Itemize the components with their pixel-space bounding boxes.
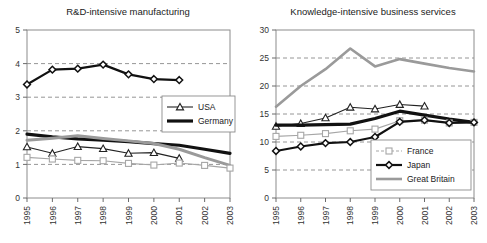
- legend-label-france: France: [407, 146, 434, 156]
- legend-label-germany: Germany: [198, 116, 234, 126]
- x-tick-label-1999: 1999: [124, 206, 134, 225]
- y-tick-label-5: 5: [264, 165, 269, 175]
- x-tick-label-1998: 1998: [98, 206, 108, 225]
- x-tick-label-2002: 2002: [200, 206, 210, 225]
- x-tick-label-1996: 1996: [296, 206, 306, 225]
- x-tick-label-2001: 2001: [420, 206, 430, 225]
- x-tick-label-1996: 1996: [48, 206, 58, 225]
- two-panel-line-chart-figure: R&D-intensive manufacturing0123451995199…: [0, 0, 487, 243]
- data-point-marker-square: [298, 132, 304, 138]
- y-tick-label-5: 5: [15, 25, 20, 35]
- x-tick-label-1999: 1999: [370, 206, 380, 225]
- data-point-marker-square: [151, 162, 157, 168]
- x-tick-label-2000: 2000: [149, 206, 159, 225]
- data-point-marker-square: [24, 154, 30, 160]
- y-tick-label-30: 30: [260, 25, 270, 35]
- y-tick-label-20: 20: [260, 81, 270, 91]
- x-tick-label-2002: 2002: [444, 206, 454, 225]
- x-tick-label-1998: 1998: [345, 206, 355, 225]
- y-tick-label-15: 15: [260, 109, 270, 119]
- legend-rnd-intensive-manufacturing: USAGermany: [162, 96, 235, 132]
- x-tick-label-1995: 1995: [271, 206, 281, 225]
- data-point-marker-square: [49, 156, 55, 162]
- x-tick-label-1997: 1997: [321, 206, 331, 225]
- x-tick-label-2000: 2000: [395, 206, 405, 225]
- chart-panel-left: R&D-intensive manufacturing0123451995199…: [0, 0, 243, 243]
- y-tick-label-2: 2: [15, 126, 20, 136]
- x-tick-label-2003: 2003: [225, 206, 235, 225]
- x-tick-label-2001: 2001: [174, 206, 184, 225]
- data-point-marker-square: [347, 128, 353, 134]
- data-point-marker-square: [372, 126, 378, 132]
- data-point-marker-square: [386, 148, 392, 154]
- x-tick-label-1995: 1995: [22, 206, 32, 225]
- y-tick-label-0: 0: [264, 193, 269, 203]
- data-point-marker-square: [227, 165, 233, 171]
- x-tick-label-1997: 1997: [73, 206, 83, 225]
- data-point-marker-square: [273, 133, 279, 139]
- y-tick-label-1: 1: [15, 160, 20, 170]
- y-tick-label-10: 10: [260, 137, 270, 147]
- data-point-marker-square: [100, 158, 106, 164]
- x-tick-label-2003: 2003: [469, 206, 479, 225]
- legend-label-great-britain: Great Britain: [407, 174, 455, 184]
- chart-svg-left: R&D-intensive manufacturing0123451995199…: [0, 0, 243, 243]
- data-point-marker-square: [202, 162, 208, 168]
- data-point-marker-square: [75, 157, 81, 163]
- y-tick-label-25: 25: [260, 53, 270, 63]
- legend-label-usa: USA: [198, 102, 216, 112]
- chart-title-rnd-intensive-manufacturing: R&D-intensive manufacturing: [66, 6, 190, 17]
- data-point-marker-square: [323, 131, 329, 137]
- legend-knowledge-intensive-business-services: FranceJapanGreat Britain: [371, 140, 471, 190]
- chart-panel-right: Knowledge-intensive business services051…: [243, 0, 486, 243]
- y-tick-label-4: 4: [15, 59, 20, 69]
- data-point-marker-square: [126, 160, 132, 166]
- data-point-marker-square: [176, 160, 182, 166]
- y-tick-label-3: 3: [15, 92, 20, 102]
- y-tick-label-0: 0: [15, 193, 20, 203]
- legend-label-japan: Japan: [407, 160, 430, 170]
- chart-svg-right: Knowledge-intensive business services051…: [243, 0, 487, 243]
- chart-title-knowledge-intensive-business-services: Knowledge-intensive business services: [290, 6, 456, 17]
